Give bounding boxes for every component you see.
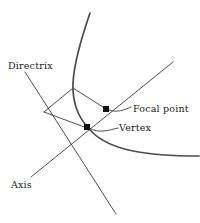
focal-point-label: Focal point — [133, 104, 189, 114]
parabola-diagram: Directrix Focal point Vertex Axis — [0, 0, 200, 223]
axis-line — [31, 62, 173, 177]
directrix-line — [25, 72, 116, 214]
construction-segment-apex-to-focus — [73, 88, 106, 109]
construction-segment-apex-to-directrix — [44, 88, 73, 112]
vertex-label: Vertex — [119, 123, 151, 133]
parabola-curve — [73, 13, 199, 156]
vertex-marker — [84, 124, 90, 130]
directrix-label: Directrix — [8, 61, 53, 71]
axis-label: Axis — [11, 180, 32, 190]
vertex-leader-line — [89, 128, 118, 131]
construction-segment-directrix-to-vertex — [44, 112, 87, 128]
focal-point-leader-line — [109, 107, 131, 111]
focal-point-marker — [103, 106, 109, 112]
